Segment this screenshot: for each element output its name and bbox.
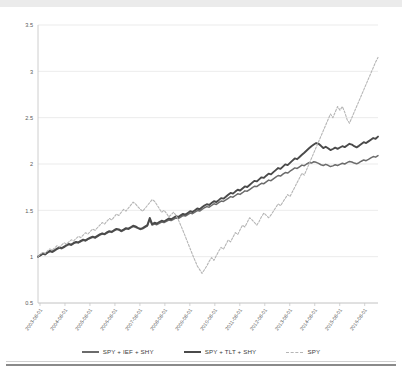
x-tick-label: 2012-08-01: [249, 307, 269, 332]
data-series-group: [38, 57, 378, 273]
y-tick-label: 3: [30, 69, 33, 75]
series-line-spy-tlt-shy: [38, 137, 378, 257]
x-tick-label: 2005-08-01: [74, 307, 94, 332]
page-top-band: [0, 0, 402, 7]
gridlines-group: [38, 25, 378, 303]
chart-screenshot: 0.511.522.533.5 2003-08-012004-08-012005…: [0, 0, 402, 375]
x-tick-label: 2010-08-01: [199, 307, 219, 332]
legend-entry-spy-ief-shy[interactable]: SPY + IEF + SHY: [82, 348, 154, 356]
y-tick-label: 2.5: [25, 115, 33, 121]
line-chart-figure: 0.511.522.533.5 2003-08-012004-08-012005…: [0, 7, 402, 375]
x-tick-labels-group: 2003-08-012004-08-012005-08-012006-08-01…: [24, 307, 368, 332]
legend-swatch-spy: [286, 352, 303, 353]
x-tick-label: 2009-08-01: [174, 307, 194, 332]
x-tick-label: 2007-08-01: [124, 307, 144, 332]
series-line-spy-ief-shy: [38, 156, 378, 257]
legend-swatch-spy-ief-shy: [82, 351, 99, 353]
y-tick-labels-group: 0.511.522.533.5: [25, 22, 33, 306]
y-tick-label: 3.5: [25, 22, 33, 28]
x-tick-label: 2014-08-01: [298, 307, 318, 332]
chart-plot-area: 0.511.522.533.5 2003-08-012004-08-012005…: [0, 7, 402, 375]
x-tick-label: 2003-08-01: [24, 307, 44, 332]
legend-label-spy: SPY: [307, 348, 320, 356]
x-tick-label: 2013-08-01: [274, 307, 294, 332]
y-tick-label: 1.5: [25, 208, 33, 214]
x-tick-marks-group: [40, 303, 365, 306]
legend-divider-light: [6, 361, 396, 362]
x-tick-label: 2006-08-01: [99, 307, 119, 332]
legend-entry-spy-tlt-shy[interactable]: SPY + TLT + SHY: [184, 348, 257, 356]
x-tick-label: 2004-08-01: [49, 307, 69, 332]
y-tick-label: 1: [30, 254, 33, 260]
y-tick-label: 2: [30, 161, 33, 167]
legend-label-spy-ief-shy: SPY + IEF + SHY: [103, 348, 154, 356]
legend-swatch-spy-tlt-shy: [184, 351, 201, 353]
x-tick-label: 2016-08-01: [348, 307, 368, 332]
legend-entry-spy[interactable]: SPY: [286, 348, 320, 356]
chart-legend: SPY + IEF + SHY SPY + TLT + SHY SPY: [0, 343, 402, 361]
x-tick-label: 2011-08-01: [224, 307, 243, 331]
legend-label-spy-tlt-shy: SPY + TLT + SHY: [205, 348, 257, 356]
y-tick-label: 0.5: [25, 300, 33, 306]
x-tick-label: 2008-08-01: [149, 307, 169, 332]
legend-divider-rule: [6, 364, 396, 366]
x-tick-label: 2015-08-01: [323, 307, 343, 332]
